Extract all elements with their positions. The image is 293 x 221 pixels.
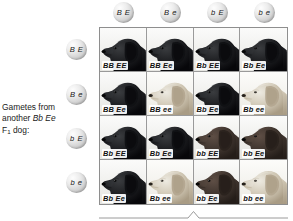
row-gamete-1-label: B E (70, 45, 84, 54)
row-gamete-4-label: b e (70, 178, 82, 187)
punnett-cell: bb ee (240, 160, 287, 204)
cell-genotype-label: Bb Ee (102, 194, 126, 203)
cell-genotype-label: Bb ee (242, 105, 265, 114)
bottom-bracket (99, 209, 288, 220)
punnett-cell: Bb ee (147, 160, 194, 204)
column-gamete-2-label: B e (164, 8, 177, 17)
cell-genotype-label: Bb Ee (242, 61, 266, 70)
punnett-cell: BB ee (147, 72, 194, 116)
left-label-dog-text: dog: (11, 125, 30, 135)
row-gamete-3: b E (66, 128, 87, 149)
cell-genotype-label: bb Ee (196, 194, 219, 203)
punnett-square-grid: BB EE (99, 27, 288, 205)
column-gamete-4-label: b e (258, 8, 270, 17)
row-gamete-2-label: B e (70, 90, 83, 99)
cell-genotype-label: bb EE (196, 149, 220, 158)
punnett-cell: BB Ee (147, 28, 194, 72)
cell-genotype-label: BB EE (102, 61, 128, 70)
punnett-cell: BB Ee (100, 72, 147, 116)
left-label-line-2-text: another (2, 113, 33, 123)
left-label-line-2: another Bb Ee (2, 113, 80, 124)
cell-genotype-label: BB Ee (102, 105, 127, 114)
column-gamete-3: b E (207, 2, 228, 23)
column-gamete-1-label: B E (117, 8, 131, 17)
cell-genotype-label: BB ee (149, 105, 173, 114)
cell-genotype-label: bb ee (242, 194, 264, 203)
column-gamete-4: b e (254, 2, 275, 23)
column-gamete-2: B e (160, 2, 181, 23)
column-gamete-1: B E (113, 2, 134, 23)
cell-genotype-label: Bb Ee (149, 149, 173, 158)
column-gamete-3-label: b E (211, 8, 224, 17)
punnett-cell: Bb ee (240, 72, 287, 116)
row-gamete-1: B E (66, 39, 87, 60)
punnett-cell: Bb Ee (100, 160, 147, 204)
punnett-cell: Bb Ee (240, 28, 287, 72)
punnett-cell: Bb Ee (194, 72, 241, 116)
punnett-cell: Bb EE (194, 28, 241, 72)
left-label-genotype: Bb Ee (33, 113, 56, 123)
punnett-cell: bb Ee (240, 116, 287, 160)
left-label-line-1: Gametes from (2, 102, 80, 113)
punnett-cell: BB EE (100, 28, 147, 72)
cell-genotype-label: Bb EE (102, 149, 127, 158)
punnett-cell: Bb Ee (147, 116, 194, 160)
punnett-cell: bb EE (194, 116, 241, 160)
cell-genotype-label: BB Ee (149, 61, 174, 70)
punnett-cell: Bb EE (100, 116, 147, 160)
left-label-subscript: 1 (7, 128, 10, 135)
cell-genotype-label: Bb Ee (196, 105, 220, 114)
row-gamete-2: B e (66, 84, 87, 105)
row-gamete-4: b e (66, 172, 87, 193)
cell-genotype-label: Bb ee (149, 194, 172, 203)
cell-genotype-label: Bb EE (196, 61, 221, 70)
cell-genotype-label: bb Ee (242, 149, 265, 158)
punnett-cell: bb Ee (194, 160, 241, 204)
row-gamete-3-label: b E (70, 134, 83, 143)
